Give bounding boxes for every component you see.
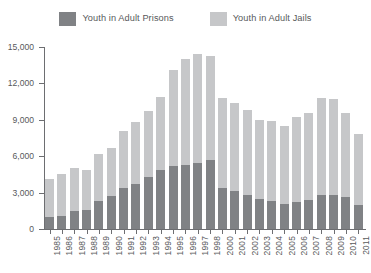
bar-segment-prisons — [218, 188, 227, 229]
bar-1994 — [156, 97, 165, 229]
bar-segment-jails — [292, 117, 301, 202]
x-axis-tick — [222, 230, 223, 234]
bar-1989 — [94, 154, 103, 229]
bar-2002 — [243, 110, 252, 229]
bar-segment-prisons — [292, 202, 301, 229]
x-axis-tick-label: 2007 — [312, 236, 320, 255]
bar-segment-jails — [354, 134, 363, 204]
bar-segment-prisons — [304, 200, 313, 229]
bar-segment-prisons — [181, 165, 190, 229]
bar-1987 — [70, 168, 79, 229]
x-axis-tick-label: 1990 — [115, 236, 123, 255]
bar-segment-jails — [341, 113, 350, 198]
bar-segment-prisons — [206, 160, 215, 229]
bar-2009 — [329, 99, 338, 229]
chart-page: Youth in Adult PrisonsYouth in Adult Jai… — [0, 0, 371, 273]
x-axis-tick-label: 1997 — [201, 236, 209, 255]
bar-segment-jails — [57, 174, 66, 215]
x-axis-tick-label: 1998 — [213, 236, 221, 255]
x-axis-tick — [74, 230, 75, 234]
bar-1985 — [45, 179, 54, 229]
x-axis-tick — [210, 230, 211, 234]
bar-segment-jails — [119, 131, 128, 188]
x-axis-tick — [297, 230, 298, 234]
bar-segment-jails — [131, 122, 140, 184]
bar-segment-prisons — [57, 216, 66, 229]
x-axis-tick-label: 2003 — [263, 236, 271, 255]
bar-segment-prisons — [156, 170, 165, 229]
bar-segment-jails — [193, 54, 202, 163]
bar-1997 — [193, 54, 202, 229]
bar-2010 — [341, 113, 350, 229]
bar-segment-jails — [82, 170, 91, 210]
x-axis-tick — [309, 230, 310, 234]
bar-2005 — [280, 126, 289, 229]
bar-segment-jails — [280, 126, 289, 204]
x-axis-tick — [50, 230, 51, 234]
bar-segment-prisons — [193, 163, 202, 229]
y-axis-tick-label: 15,000 — [0, 43, 34, 52]
x-axis-tick-label: 2009 — [337, 236, 345, 255]
x-axis-tick — [148, 230, 149, 234]
x-axis-tick-label: 2008 — [325, 236, 333, 255]
bar-segment-jails — [218, 98, 227, 188]
bar-segment-jails — [230, 103, 239, 192]
bar-segment-prisons — [107, 196, 116, 229]
x-axis-tick-label: 1985 — [53, 236, 61, 255]
bar-segment-prisons — [70, 211, 79, 229]
x-axis-tick-label: 1987 — [78, 236, 86, 255]
bar-2006 — [292, 117, 301, 229]
x-axis-tick — [247, 230, 248, 234]
x-axis-tick-label: 2010 — [349, 236, 357, 255]
x-axis-tick — [111, 230, 112, 234]
bar-segment-prisons — [144, 177, 153, 229]
bar-segment-jails — [70, 168, 79, 210]
x-axis-tick-label: 1991 — [127, 236, 135, 255]
x-axis-tick-label: 2011 — [362, 236, 370, 255]
y-axis-tick-label: 12,000 — [0, 79, 34, 88]
bar-1988 — [82, 170, 91, 229]
bar-2011 — [354, 134, 363, 229]
x-axis-tick — [321, 230, 322, 234]
x-axis-tick-label: 1989 — [102, 236, 110, 255]
bar-segment-prisons — [94, 201, 103, 229]
bar-segment-prisons — [131, 184, 140, 229]
bar-segment-jails — [267, 121, 276, 201]
bar-2007 — [304, 113, 313, 229]
bar-2008 — [317, 98, 326, 229]
bar-segment-prisons — [341, 197, 350, 229]
x-axis-tick — [235, 230, 236, 234]
x-axis-line — [44, 229, 366, 230]
bar-segment-jails — [181, 59, 190, 165]
x-axis-tick-label: 2005 — [288, 236, 296, 255]
y-axis-tick-label: 3,000 — [0, 189, 34, 198]
bar-segment-jails — [243, 110, 252, 195]
bar-segment-prisons — [169, 166, 178, 229]
y-axis-tick — [39, 47, 45, 48]
bar-segment-jails — [156, 97, 165, 170]
bar-1986 — [57, 174, 66, 229]
bar-segment-jails — [144, 111, 153, 177]
bar-2000 — [218, 98, 227, 229]
x-axis-tick — [99, 230, 100, 234]
bar-segment-jails — [94, 154, 103, 201]
bar-1998 — [206, 56, 215, 230]
x-axis-tick-label: 2000 — [226, 236, 234, 255]
bar-segment-prisons — [267, 201, 276, 229]
x-axis-tick-label: 1993 — [152, 236, 160, 255]
y-axis-tick — [39, 83, 45, 84]
x-axis-tick — [198, 230, 199, 234]
bar-segment-jails — [206, 56, 215, 160]
chart-plot-area: 03,0006,0009,00012,00015,000 19851986198… — [0, 0, 371, 273]
bar-segment-prisons — [119, 188, 128, 229]
bar-segment-jails — [304, 113, 313, 200]
x-axis-tick-label: 1994 — [164, 236, 172, 255]
x-axis-tick-label: 1996 — [189, 236, 197, 255]
y-axis-tick — [39, 156, 45, 157]
x-axis-tick-label: 1992 — [139, 236, 147, 255]
x-axis-tick-label: 1986 — [65, 236, 73, 255]
x-axis-tick — [334, 230, 335, 234]
x-axis-tick-label: 2002 — [251, 236, 259, 255]
bar-segment-prisons — [230, 191, 239, 229]
x-axis-tick — [161, 230, 162, 234]
